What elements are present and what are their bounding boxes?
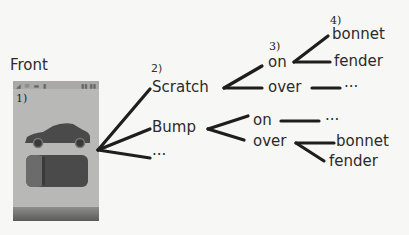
node-bump-on-more[interactable]: ···: [325, 113, 339, 128]
node-scratch-on-fender[interactable]: fender: [334, 54, 383, 69]
node-bump-on[interactable]: on: [253, 113, 272, 128]
node-bump-over-bonnet[interactable]: bonnet: [336, 134, 389, 149]
node-scratch-on-bonnet[interactable]: bonnet: [332, 27, 385, 42]
node-bump-over[interactable]: over: [253, 134, 286, 149]
node-bump[interactable]: Bump: [152, 120, 196, 135]
node-scratch[interactable]: Scratch: [152, 80, 209, 95]
node-scratch-over-more[interactable]: ···: [344, 80, 358, 95]
node-more[interactable]: ···: [152, 148, 166, 163]
node-scratch-over[interactable]: over: [268, 80, 301, 95]
step-label-3: 3): [269, 41, 280, 52]
node-scratch-on[interactable]: on: [268, 55, 287, 70]
node-bump-over-fender[interactable]: fender: [329, 154, 378, 169]
step-label-2: 2): [151, 63, 162, 74]
